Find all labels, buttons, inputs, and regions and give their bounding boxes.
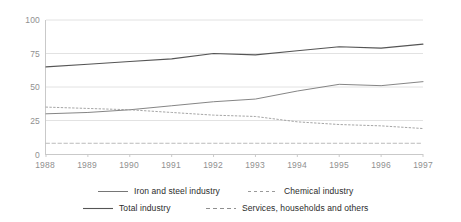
x-tick-label-1988: 1988 xyxy=(25,161,65,170)
y-axis: 100 75 50 25 0 xyxy=(0,0,40,155)
x-tick-label-1996: 1996 xyxy=(361,161,401,170)
legend-item-chemical-industry[interactable]: Chemical industry xyxy=(248,183,353,200)
legend-item-iron-and-steel-industry[interactable]: Iron and steel industry xyxy=(98,183,220,200)
legend-label-services-households-and-others: Services, households and others xyxy=(242,204,368,213)
series-line-total-industry xyxy=(46,44,423,67)
legend-label-iron-and-steel-industry: Iron and steel industry xyxy=(134,187,220,196)
legend-row-2: Total industry Services, households and … xyxy=(88,200,418,217)
x-axis: 1988 1989 1990 1991 1992 1993 1994 1995 … xyxy=(45,161,423,175)
x-tick-label-1995: 1995 xyxy=(319,161,359,170)
x-tick-label-1994: 1994 xyxy=(277,161,317,170)
y-tick-label-25: 25 xyxy=(0,117,40,126)
x-tick-label-1993: 1993 xyxy=(235,161,275,170)
legend-line-icon-total-industry xyxy=(83,204,113,213)
x-tick-label-1989: 1989 xyxy=(67,161,107,170)
legend-label-chemical-industry: Chemical industry xyxy=(284,187,353,196)
legend-line-icon-services-households-and-others xyxy=(206,204,236,213)
series-line-chemical-industry xyxy=(46,107,423,128)
plot-area xyxy=(45,20,423,155)
x-tick-label-1997: 1997 xyxy=(403,161,443,170)
x-axis-ticks xyxy=(46,154,423,157)
legend-label-total-industry: Total industry xyxy=(119,204,170,213)
legend-line-icon-iron-and-steel-industry xyxy=(98,187,128,196)
legend-row-1: Iron and steel industry Chemical industr… xyxy=(88,183,418,200)
legend-item-total-industry[interactable]: Total industry xyxy=(83,200,170,217)
legend-item-services-households-and-others[interactable]: Services, households and others xyxy=(206,200,368,217)
gridlines xyxy=(46,20,423,121)
plot-canvas xyxy=(46,20,423,154)
chart-legend: Iron and steel industry Chemical industr… xyxy=(88,183,418,219)
y-tick-label-75: 75 xyxy=(0,50,40,59)
legend-line-icon-chemical-industry xyxy=(248,187,278,196)
data-series-layer xyxy=(46,44,423,143)
y-tick-label-50: 50 xyxy=(0,83,40,92)
x-tick-label-1991: 1991 xyxy=(151,161,191,170)
y-tick-label-100: 100 xyxy=(0,16,40,25)
y-tick-label-0: 0 xyxy=(0,151,40,160)
x-tick-label-1990: 1990 xyxy=(109,161,149,170)
line-chart: 100 75 50 25 0 xyxy=(0,0,461,222)
x-tick-label-1992: 1992 xyxy=(193,161,233,170)
